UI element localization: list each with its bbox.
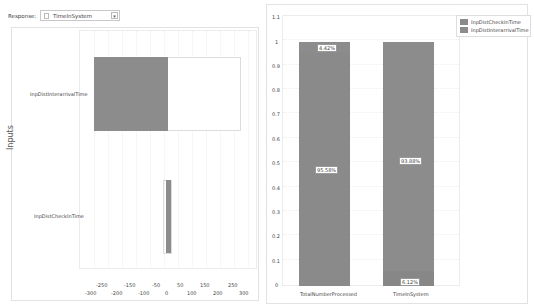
y-axis-title: Inputs	[6, 125, 15, 150]
legend-label: InpDistCheckInTime	[471, 19, 521, 25]
y-tick: 0.6	[272, 136, 280, 142]
y-tick: 0.1	[272, 258, 280, 264]
x-tick: -150	[124, 282, 135, 288]
x-tick: -200	[111, 290, 122, 296]
x-tick: -250	[96, 282, 107, 288]
category-label-checkin: InpDistCheckInTime	[34, 213, 84, 219]
x-category-label: TimeInSystem	[393, 291, 429, 297]
y-tick: 0	[275, 282, 278, 288]
chart-legend: InpDistCheckInTime InpDistInterarrivalTi…	[456, 15, 531, 37]
tornado-plot-area	[79, 30, 257, 269]
y-tick: 0.4	[272, 185, 280, 191]
x-tick: 100	[187, 290, 197, 296]
response-label: Response:	[8, 13, 36, 19]
bar-checkin-fill[interactable]	[166, 180, 171, 253]
x-category-label: TotalNumberProcessed	[300, 291, 357, 297]
data-label: 4.42%	[317, 44, 337, 52]
x-tick: -300	[85, 290, 96, 296]
y-tick: 0.5	[272, 160, 280, 166]
y-tick: 0.8	[272, 87, 280, 93]
data-label: 95.58%	[315, 166, 338, 174]
x-tick: -100	[138, 290, 149, 296]
y-tick: 0.3	[272, 209, 280, 215]
x-tick: 50	[177, 282, 183, 288]
y-tick: 0.9	[272, 63, 280, 69]
x-tick: 0	[165, 290, 168, 296]
chevron-down-icon[interactable]: ▾	[111, 12, 118, 19]
legend-swatch	[460, 27, 468, 33]
x-tick: -50	[152, 282, 160, 288]
x-tick: 150	[200, 282, 210, 288]
y-tick: 1.1	[272, 14, 280, 20]
y-tick: 0.7	[272, 111, 280, 117]
data-label: 93.88%	[399, 157, 422, 165]
category-label-interarrival: InpDistInterarrivalTime	[30, 91, 87, 97]
x-tick: 300	[239, 290, 249, 296]
stacked-plot-area: 4.42% 95.58% 93.88% 6.12%	[282, 15, 460, 286]
bar-interarrival-fill[interactable]	[94, 57, 168, 131]
x-tick: 200	[213, 290, 223, 296]
variable-icon	[44, 13, 49, 19]
x-tick: 250	[228, 282, 238, 288]
data-label: 6.12%	[400, 278, 420, 286]
response-value: TimeInSystem	[53, 13, 92, 19]
y-tick: 0.2	[272, 233, 280, 239]
y-tick: 1	[275, 39, 278, 45]
response-dropdown[interactable]: TimeInSystem ▾	[40, 10, 120, 21]
legend-label: InpDistInterarrivalTime	[471, 27, 528, 33]
legend-swatch	[460, 19, 468, 25]
